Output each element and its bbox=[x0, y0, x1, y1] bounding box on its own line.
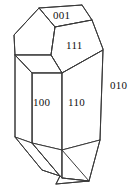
face-label-111: 111 bbox=[66, 40, 83, 51]
crystal-figure: 001 111 100 110 010 bbox=[0, 0, 133, 191]
face-label-010: 010 bbox=[110, 80, 127, 91]
face-label-100: 100 bbox=[33, 97, 50, 108]
face-label-001: 001 bbox=[53, 10, 70, 21]
face-100-polygon bbox=[32, 73, 62, 150]
face-label-110: 110 bbox=[68, 97, 85, 108]
crystal-drawing bbox=[0, 0, 133, 191]
